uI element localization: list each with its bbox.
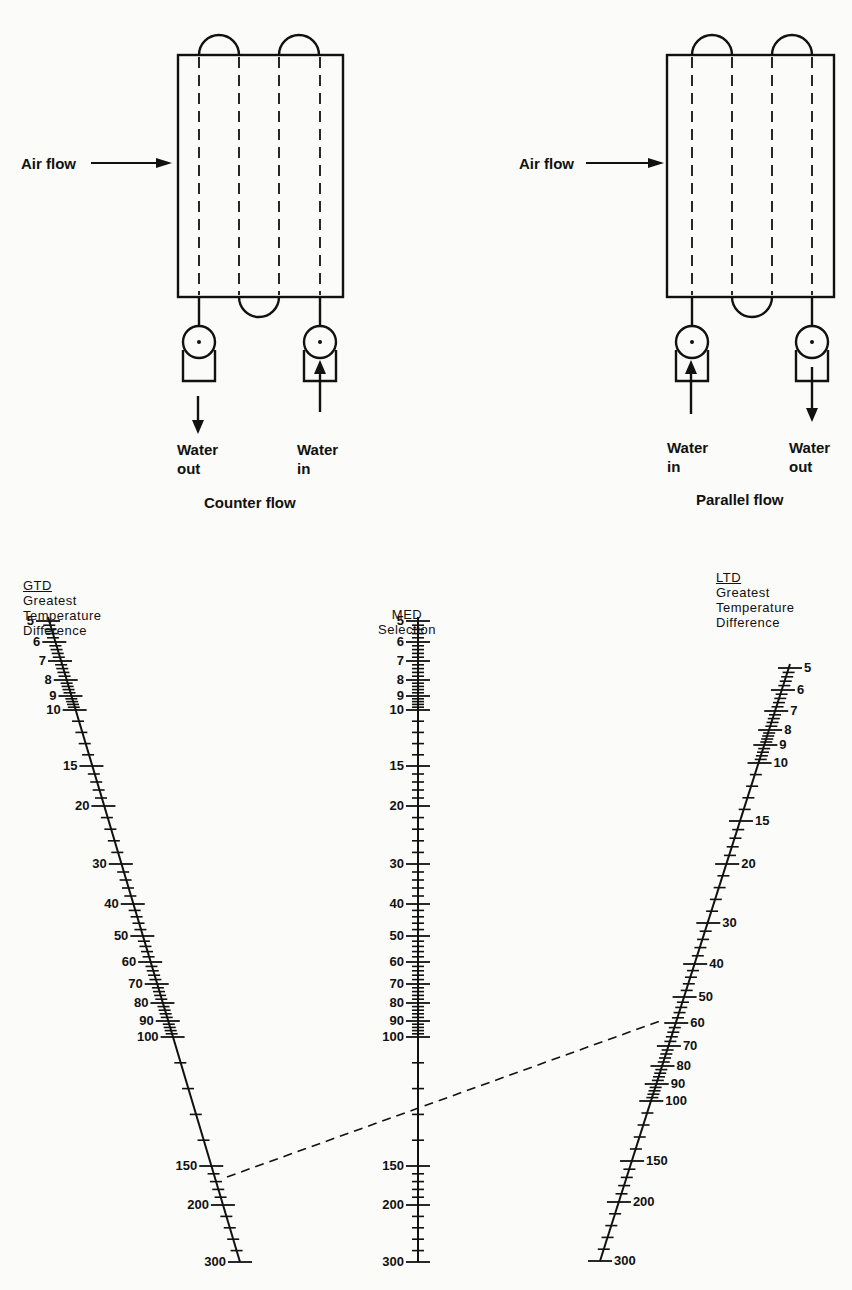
water-out-parallel-line2: out [789, 457, 830, 476]
gtd-tick-label: 300 [204, 1255, 226, 1268]
med-tick-label: 5 [397, 614, 404, 627]
ltd-line2: Temperature [716, 600, 794, 615]
med-heading: MED Selection [378, 607, 436, 637]
med-tick-label: 80 [390, 996, 404, 1009]
med-line2: Selection [378, 622, 436, 637]
gtd-tick-label: 80 [134, 996, 148, 1009]
gtd-tick-label: 100 [137, 1030, 159, 1043]
counter-flow-caption: Counter flow [204, 493, 296, 512]
med-tick-label: 200 [382, 1198, 404, 1211]
ltd-scale-axis [600, 664, 790, 1261]
ltd-tick-label: 10 [774, 756, 788, 769]
ltd-tick-label: 80 [676, 1059, 690, 1072]
gtd-heading: GTD Greatest Temperature Difference [23, 578, 101, 638]
med-tick-label: 20 [390, 799, 404, 812]
diagram-canvas [0, 0, 852, 1290]
med-tick-label: 30 [390, 857, 404, 870]
med-tick-label: 7 [397, 654, 404, 667]
water-out-label: Water out [177, 440, 218, 478]
med-tick-label: 50 [390, 929, 404, 942]
med-tick-label: 70 [390, 977, 404, 990]
med-tick-label: 9 [397, 689, 404, 702]
ltd-tick-label: 40 [709, 957, 723, 970]
ltd-tick-label: 70 [683, 1039, 697, 1052]
med-tick-label: 6 [397, 635, 404, 648]
med-tick-label: 10 [390, 703, 404, 716]
ltd-tick-label: 30 [722, 916, 736, 929]
gtd-tick-label: 90 [139, 1014, 153, 1027]
med-tick-label: 15 [390, 759, 404, 772]
air-flow-label-parallel: Air flow [519, 154, 574, 173]
gtd-tick-label: 70 [128, 977, 142, 990]
gtd-tick-label: 150 [176, 1159, 198, 1172]
gtd-tick-label: 8 [44, 673, 51, 686]
med-tick-label: 90 [390, 1014, 404, 1027]
counter-flow-coil [178, 35, 343, 317]
ltd-tick-label: 100 [665, 1094, 687, 1107]
ltd-tick-label: 8 [784, 723, 791, 736]
water-out-label-parallel: Water out [789, 438, 830, 476]
air-flow-label-counter: Air flow [21, 154, 76, 173]
ltd-tick-label: 90 [671, 1077, 685, 1090]
med-tick-label: 60 [390, 955, 404, 968]
med-tick-label: 8 [397, 673, 404, 686]
gtd-tick-label: 30 [92, 857, 106, 870]
water-in-label-parallel: Water in [667, 438, 708, 476]
parallel-flow-caption: Parallel flow [696, 490, 784, 509]
med-tick-label: 40 [390, 897, 404, 910]
gtd-tick-label: 20 [75, 799, 89, 812]
ltd-tick-label: 20 [741, 857, 755, 870]
water-out-line1: Water [177, 440, 218, 459]
med-line1: MED [378, 607, 436, 622]
ltd-tick-label: 300 [614, 1254, 636, 1267]
example-dashed-line [227, 1021, 660, 1177]
ltd-tick-label: 60 [690, 1016, 704, 1029]
parallel-flow-coil [667, 35, 834, 317]
ltd-tick-label: 7 [790, 704, 797, 717]
gtd-tick-label: 200 [187, 1198, 209, 1211]
water-in-label: Water in [297, 440, 338, 478]
water-in-parallel-line2: in [667, 457, 708, 476]
water-in-line1: Water [297, 440, 338, 459]
ltd-tick-label: 15 [755, 814, 769, 827]
med-tick-label: 150 [382, 1159, 404, 1172]
ltd-heading: LTD Greatest Temperature Difference [716, 570, 794, 630]
water-in-parallel-line1: Water [667, 438, 708, 457]
water-in-line2: in [297, 459, 338, 478]
counter-flow-pump-left [183, 297, 215, 381]
gtd-abbr: GTD [23, 578, 101, 593]
gtd-line1: Greatest [23, 593, 101, 608]
gtd-tick-label: 9 [49, 689, 56, 702]
gtd-tick-label: 10 [46, 703, 60, 716]
gtd-tick-label: 6 [33, 635, 40, 648]
gtd-tick-label: 7 [39, 654, 46, 667]
ltd-tick-label: 150 [646, 1154, 668, 1167]
ltd-tick-label: 9 [779, 738, 786, 751]
gtd-tick-label: 40 [104, 897, 118, 910]
gtd-tick-label: 60 [122, 955, 136, 968]
ltd-tick-label: 6 [797, 683, 804, 696]
ltd-tick-label: 5 [804, 661, 811, 674]
med-tick-label: 100 [382, 1030, 404, 1043]
gtd-line2: Temperature [23, 608, 101, 623]
gtd-tick-label: 15 [63, 759, 77, 772]
med-tick-label: 300 [382, 1255, 404, 1268]
ltd-tick-label: 50 [699, 990, 713, 1003]
water-out-line2: out [177, 459, 218, 478]
water-out-parallel-line1: Water [789, 438, 830, 457]
gtd-tick-label: 5 [27, 614, 34, 627]
gtd-tick-label: 50 [114, 929, 128, 942]
ltd-tick-label: 200 [633, 1195, 655, 1208]
ltd-line3: Difference [716, 615, 794, 630]
ltd-line1: Greatest [716, 585, 794, 600]
ltd-abbr: LTD [716, 570, 794, 585]
